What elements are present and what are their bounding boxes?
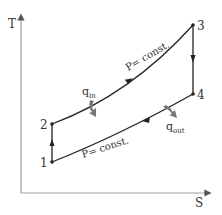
point-label-3: 3 [197,19,205,33]
point-2 [50,122,54,126]
point-1 [50,160,54,164]
point-4 [191,92,195,96]
arrow-3-4-icon [191,55,196,63]
s-axis-label: S [195,196,203,210]
point-label-4: 4 [197,88,205,102]
point-label-2: 2 [40,118,48,132]
point-3 [191,23,195,27]
lower-pressure-label: P= const. [80,134,130,160]
arrow-1-2-icon [50,139,55,146]
heat-in-arrow-icon [89,100,96,117]
t-axis-label: T [8,17,16,31]
q-in-label: qin [82,85,96,100]
process-2-3 [52,25,193,124]
point-label-1: 1 [40,156,48,170]
upper-pressure-label: P= const. [124,39,172,73]
arrow-2-3-icon [125,78,134,84]
q-out-label: qout [166,120,185,135]
ts-diagram: T S 1 2 3 4 P= const. P= const. qin qout [0,0,222,215]
